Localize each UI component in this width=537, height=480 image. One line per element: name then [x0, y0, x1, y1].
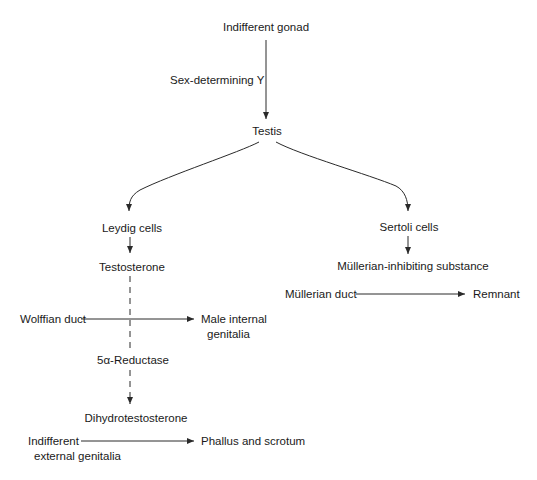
label-5alpha-reductase: 5α-Reductase: [97, 353, 169, 367]
node-dihydrotestosterone: Dihydrotestosterone: [85, 411, 188, 425]
node-testis: Testis: [252, 124, 281, 138]
node-remnant: Remnant: [473, 287, 520, 301]
node-mullerian-duct: Müllerian duct: [285, 287, 357, 301]
node-indifferent-external-line1: Indifferent: [28, 434, 79, 448]
node-phallus-and-scrotum: Phallus and scrotum: [201, 434, 305, 448]
node-leydig-cells: Leydig cells: [102, 221, 162, 235]
node-indifferent-external-line2: external genitalia: [34, 449, 121, 463]
diagram-connectors: [0, 0, 537, 480]
label-sex-determining-y: Sex-determining Y: [170, 73, 264, 87]
node-mullerian-inhibiting-substance: Müllerian-inhibiting substance: [337, 259, 489, 273]
node-male-internal-line2: genitalia: [207, 327, 250, 341]
arrow-testis-to-leydig: [129, 142, 259, 211]
node-male-internal-line1: Male internal: [201, 312, 267, 326]
node-wolffian-duct: Wolffian duct: [20, 312, 86, 326]
node-testosterone: Testosterone: [99, 260, 165, 274]
arrow-testis-to-sertoli: [276, 142, 408, 211]
node-sertoli-cells: Sertoli cells: [380, 220, 439, 234]
node-indifferent-gonad: Indifferent gonad: [223, 20, 309, 34]
